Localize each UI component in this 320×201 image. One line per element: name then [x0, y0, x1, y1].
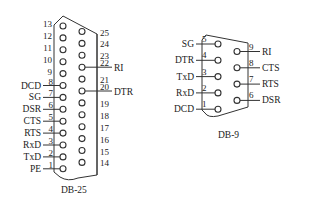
- signal-label: PE: [30, 164, 41, 174]
- pin-number: 9: [48, 67, 53, 77]
- db25-pin-11: 11: [43, 43, 66, 53]
- db9-connector: 5SG4DTR3TxD2RxD1DCD9RI8CTS7RTS6DSR: [174, 34, 281, 117]
- db25-connector: 1312111098DCD7SG6DSR5CTS4RTS3RxD2TxD1PE2…: [21, 16, 134, 180]
- db25-pin-20: 20DTR: [79, 82, 134, 97]
- pin-number: 3: [202, 67, 207, 77]
- signal-label: RI: [114, 63, 124, 73]
- db25-pin-17: 17: [79, 123, 110, 133]
- pin-number: 11: [43, 43, 52, 53]
- signal-label: DTR: [114, 87, 134, 97]
- pin-number: 8: [249, 58, 254, 68]
- signal-label: DSR: [262, 95, 281, 105]
- db25-pin-24: 24: [79, 39, 110, 49]
- signal-label: DTR: [175, 55, 195, 65]
- pin-number: 19: [100, 99, 110, 109]
- pin-number: 18: [100, 111, 110, 121]
- signal-label: RTS: [262, 79, 279, 89]
- signal-label: DSR: [23, 104, 42, 114]
- pin-number: 5: [202, 34, 207, 44]
- db25-pin-19: 19: [79, 99, 110, 109]
- pin-number: 4: [202, 50, 207, 60]
- signal-label: SG: [182, 39, 194, 49]
- db9-pin-8: 8CTS: [234, 58, 279, 73]
- signal-label: RI: [262, 47, 272, 57]
- db9-title: DB-9: [218, 130, 239, 140]
- pin-number: 1: [202, 99, 207, 109]
- pin-number: 2: [202, 83, 207, 93]
- pin-number: 6: [249, 90, 254, 100]
- db25-pin-9: 9: [48, 67, 67, 77]
- pin-number: 10: [43, 55, 53, 65]
- pin-number: 12: [43, 31, 52, 41]
- signal-label: CTS: [24, 116, 41, 126]
- signal-label: DCD: [174, 104, 194, 114]
- signal-label: TxD: [177, 72, 195, 82]
- db25-title: DB-25: [61, 185, 87, 195]
- db9-pin-1: 1DCD: [174, 99, 221, 114]
- pin-number: 9: [249, 42, 254, 52]
- pin-number: 17: [100, 123, 110, 133]
- pin-number: 24: [100, 39, 110, 49]
- db25-pin-22: 22RI: [79, 58, 124, 73]
- signal-label: RxD: [176, 88, 194, 98]
- signal-label: CTS: [262, 63, 279, 73]
- db25-pin-15: 15: [79, 147, 110, 157]
- db25-pin-16: 16: [79, 135, 110, 145]
- db25-pin-2: 2TxD: [24, 148, 66, 162]
- db25-pin-7: 7SG: [29, 88, 66, 102]
- pin-number: 16: [100, 135, 110, 145]
- pin-number: 7: [249, 74, 254, 84]
- db9-shell: [202, 35, 248, 117]
- pin-number: 25: [100, 28, 110, 38]
- signal-label: RTS: [24, 128, 41, 138]
- db25-pin-14: 14: [79, 158, 110, 168]
- pin-number: 13: [43, 19, 53, 29]
- db9-pin-7: 7RTS: [234, 74, 279, 89]
- signal-label: SG: [29, 92, 41, 102]
- db9-pin-4: 4DTR: [175, 50, 221, 65]
- db9-pin-3: 3TxD: [177, 67, 221, 82]
- db9-pin-9: 9RI: [234, 42, 272, 57]
- db9-pin-2: 2RxD: [176, 83, 221, 98]
- db25-pin-18: 18: [79, 111, 110, 121]
- db9-pin-6: 6DSR: [234, 90, 281, 105]
- pin-number: 14: [100, 158, 110, 168]
- pin-number: 15: [100, 147, 110, 157]
- signal-label: RxD: [23, 140, 41, 150]
- db25-pin-8: 8DCD: [21, 77, 66, 91]
- signal-label: TxD: [24, 152, 42, 162]
- signal-label: DCD: [21, 81, 41, 91]
